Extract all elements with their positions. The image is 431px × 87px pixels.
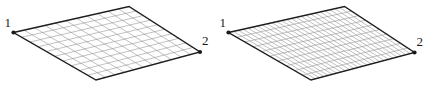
- mesh-grid-line-v: [47, 25, 158, 52]
- vertex-marker-1: [11, 30, 15, 34]
- fine-mesh-diagram: 12: [215, 0, 431, 87]
- mesh-grid-group: [233, 8, 410, 79]
- mesh-grid-line-u: [238, 30, 319, 77]
- mesh-grid-group: [22, 9, 193, 78]
- coarse-mesh-panel: 12: [0, 0, 215, 87]
- mesh-grid-line-v: [55, 29, 165, 56]
- vertex-label-1: 1: [220, 15, 227, 30]
- mesh-grid-line-u: [243, 29, 324, 76]
- vertex-marker-2: [198, 50, 202, 54]
- fine-mesh-panel: 12: [215, 0, 431, 87]
- vertex-marker-1: [226, 30, 230, 34]
- mesh-grid-line-v: [22, 11, 136, 37]
- vertex-marker-2: [412, 50, 416, 54]
- vertex-label-1: 1: [5, 15, 12, 30]
- mesh-grid-line-v: [63, 34, 172, 61]
- vertex-label-2: 2: [202, 33, 209, 48]
- mesh-grid-line-v: [30, 16, 143, 42]
- mesh-grid-line-u: [233, 31, 315, 78]
- mesh-grid-line-v: [38, 20, 150, 47]
- figure-root: 12 12: [0, 0, 431, 87]
- mesh-outline: [229, 7, 415, 81]
- coarse-mesh-diagram: 12: [0, 0, 215, 87]
- vertex-label-2: 2: [417, 34, 424, 49]
